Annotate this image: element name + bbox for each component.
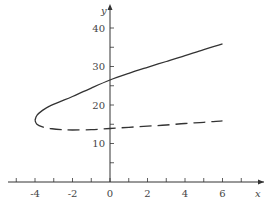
x-tick-label: -2	[68, 188, 78, 199]
x-tick-label: 4	[182, 188, 188, 199]
x-axis-arrow-icon	[258, 180, 264, 185]
x-tick-label: 2	[144, 188, 150, 199]
chart: -4-2024610203040 x y	[0, 0, 272, 206]
y-axis-arrow-icon	[108, 4, 113, 10]
y-tick-label: 20	[92, 100, 105, 111]
x-tick-label: 0	[107, 188, 113, 199]
x-tick-label: 6	[219, 188, 225, 199]
y-axis-label: y	[100, 5, 107, 16]
axes	[8, 4, 264, 185]
x-tick-label: -4	[30, 188, 40, 199]
series-lower-branch	[35, 120, 223, 130]
y-tick-label: 30	[92, 61, 105, 72]
y-tick-label: 10	[92, 138, 105, 149]
x-axis-label: x	[255, 188, 261, 199]
plot-area	[35, 44, 223, 130]
series-upper-branch	[35, 44, 223, 121]
y-tick-label: 40	[92, 23, 105, 34]
